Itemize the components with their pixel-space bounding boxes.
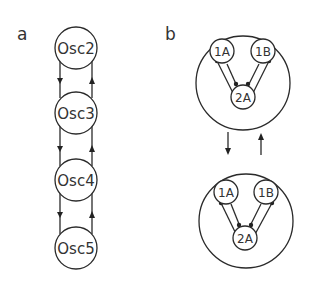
node-label: 2A [235, 91, 252, 105]
node-osc3: Osc3 [55, 92, 97, 134]
arrow-up-icon [89, 77, 95, 84]
node-osc4: Osc4 [55, 159, 97, 201]
panel-a-label: a [17, 24, 27, 44]
node-label: Osc2 [57, 40, 94, 58]
arrow-down-icon [57, 146, 63, 152]
module-connections [225, 132, 264, 155]
node-label: 1A [218, 186, 235, 200]
node-label: 1A [214, 45, 231, 59]
node-1b: 1B [251, 39, 275, 63]
node-label: Osc5 [57, 240, 94, 258]
module-bottom: 1A 1B 2A [199, 174, 293, 268]
node-2a: 2A [231, 85, 255, 109]
panel-a-connections [57, 60, 95, 234]
node-label: Osc4 [57, 172, 94, 190]
node-2a: 2A [233, 226, 257, 250]
node-label: 1B [258, 186, 274, 200]
node-osc2: Osc2 [55, 27, 97, 69]
node-label: Osc3 [57, 105, 94, 123]
oscillator-diagram: a Osc2 Osc3 Osc4 [0, 0, 309, 284]
node-1b: 1B [254, 180, 278, 204]
node-1a: 1A [210, 39, 234, 63]
arrow-up-icon [258, 133, 264, 140]
node-osc5: Osc5 [55, 227, 97, 269]
arrow-up-icon [89, 145, 95, 152]
panel-b-label: b [165, 24, 176, 44]
arrow-up-icon [89, 211, 95, 218]
node-label: 1B [255, 45, 271, 59]
node-label: 2A [237, 232, 254, 246]
arrow-down-icon [57, 78, 63, 84]
arrow-down-icon [225, 148, 231, 155]
arrow-down-icon [57, 212, 63, 218]
module-top: 1A 1B 2A [196, 36, 290, 130]
node-1a: 1A [214, 180, 238, 204]
panel-a: a Osc2 Osc3 Osc4 [17, 24, 97, 269]
panel-b: b 1A 1B 2A [165, 24, 293, 268]
